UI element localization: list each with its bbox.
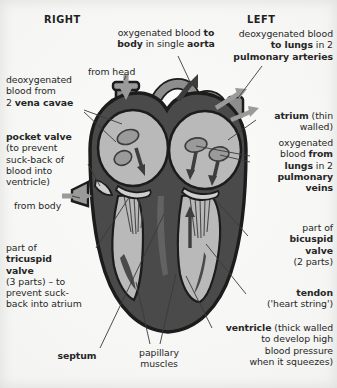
label-bicuspid-valve-line: bicuspid — [250, 233, 333, 244]
label-atrium-line: atrium (thin — [255, 110, 333, 121]
label-from-head: from head — [88, 66, 158, 77]
label-tricuspid-valve-line: prevent suck- — [6, 287, 98, 298]
label-bicuspid-valve: part ofbicuspidvalve(2 parts) — [250, 222, 333, 267]
label-from-head-line: from head — [88, 66, 158, 77]
label-pulmonary-veins-line: oxygenated — [252, 137, 333, 148]
label-tricuspid-valve-line: tricuspid — [6, 253, 98, 264]
label-pulmonary-veins-line: veins — [252, 182, 333, 193]
right-atrium-chamber — [98, 110, 168, 186]
label-ventricle-line: ventricle (thick walled — [202, 322, 333, 333]
label-ventricle-line: when it squeezes) — [202, 356, 333, 367]
label-bicuspid-valve-line: valve — [250, 245, 333, 256]
label-vena-cavae: deoxygenatedblood from2 vena cavae — [6, 74, 92, 108]
label-atrium: atrium (thinwalled) — [255, 110, 333, 133]
side-header-left: LEFT — [247, 14, 275, 25]
label-papillary-muscles: papillarymuscles — [124, 347, 194, 370]
label-from-body-line: from body — [14, 200, 84, 211]
label-tendon-line: tendon — [248, 287, 333, 298]
label-papillary-muscles-line: papillary — [124, 347, 194, 358]
label-pocket-valve-line: (to prevent — [6, 142, 90, 153]
label-ventricle-line: blood pressure — [202, 345, 333, 356]
label-pulmonary-arteries-line: deoxygenated blood — [225, 28, 333, 39]
label-atrium-line: walled) — [255, 121, 333, 132]
label-tendon-line: ('heart string') — [248, 298, 333, 309]
label-pocket-valve-line: ventricle) — [6, 176, 90, 187]
label-ventricle: ventricle (thick walledto develop highbl… — [202, 322, 333, 367]
label-vena-cavae-line: blood from — [6, 85, 92, 96]
label-pulmonary-veins: oxygenatedblood fromlungs in 2pulmonaryv… — [252, 137, 333, 193]
left-atrium-chamber — [169, 111, 241, 189]
label-aorta-line: body in single aorta — [108, 38, 224, 49]
label-pocket-valve-line: blood into — [6, 165, 90, 176]
label-pulmonary-veins-line: lungs in 2 — [252, 160, 333, 171]
label-bicuspid-valve-line: (2 parts) — [250, 256, 333, 267]
heart-diagram-figure: RIGHT LEFT oxygenated blood tobody in si… — [0, 0, 337, 388]
label-bicuspid-valve-line: part of — [250, 222, 333, 233]
label-tricuspid-valve-line: back into atrium — [6, 298, 98, 309]
label-from-body: from body — [14, 200, 84, 211]
label-pocket-valve-line: suck-back of — [6, 154, 90, 165]
heart-body-group — [90, 93, 246, 332]
label-vena-cavae-line: deoxygenated — [6, 74, 92, 85]
label-tricuspid-valve-line: part of — [6, 242, 98, 253]
label-ventricle-line: to develop high — [202, 333, 333, 344]
label-tricuspid-valve-line: valve — [6, 265, 98, 276]
label-pocket-valve-line: pocket valve — [6, 131, 90, 142]
label-tricuspid-valve-line: (3 parts) – to — [6, 276, 98, 287]
label-septum: septum — [46, 350, 108, 361]
label-pulmonary-arteries-line: to lungs in 2 — [225, 39, 333, 50]
label-vena-cavae-line: 2 vena cavae — [6, 97, 92, 108]
label-pulmonary-arteries-line: pulmonary arteries — [225, 51, 333, 62]
label-pulmonary-veins-line: pulmonary — [252, 171, 333, 182]
label-aorta-line: oxygenated blood to — [108, 27, 224, 38]
label-tricuspid-valve: part oftricuspidvalve(3 parts) – topreve… — [6, 242, 98, 310]
side-header-right: RIGHT — [44, 14, 81, 25]
label-pocket-valve: pocket valve(to preventsuck-back ofblood… — [6, 131, 90, 187]
label-tendon: tendon('heart string') — [248, 287, 333, 310]
label-aorta: oxygenated blood tobody in single aorta — [108, 27, 224, 50]
label-septum-line: septum — [46, 350, 108, 361]
label-pulmonary-arteries: deoxygenated bloodto lungs in 2pulmonary… — [225, 28, 333, 62]
label-papillary-muscles-line: muscles — [124, 358, 194, 369]
label-pulmonary-veins-line: blood from — [252, 148, 333, 159]
